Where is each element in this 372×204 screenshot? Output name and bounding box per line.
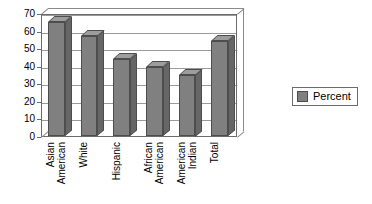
y-tick-label: 50 xyxy=(5,44,35,54)
x-tick-label: Asian American xyxy=(45,142,67,184)
x-tick-label: Total xyxy=(209,142,220,163)
bar-white[interactable] xyxy=(81,30,98,136)
y-tick-mark xyxy=(37,67,41,68)
y-tick-mark xyxy=(37,49,41,50)
bar-front-face xyxy=(81,36,98,136)
bar-hispanic[interactable] xyxy=(113,53,130,136)
bar-front-face xyxy=(211,41,228,136)
x-tick-label: African American xyxy=(143,142,165,184)
chart-screenshot: 706050403020100 Asian AmericanWhiteHispa… xyxy=(0,0,372,204)
bar-side-face xyxy=(195,69,202,136)
bar-front-face xyxy=(48,22,65,136)
y-tick-label: 30 xyxy=(5,79,35,89)
bar-chart: 706050403020100 Asian AmericanWhiteHispa… xyxy=(0,0,270,204)
bar-side-face xyxy=(65,16,72,136)
y-tick-label: 60 xyxy=(5,27,35,37)
plot-area xyxy=(41,14,237,137)
legend-swatch-percent xyxy=(297,91,308,102)
bar-front-face xyxy=(146,67,163,136)
y-tick-label: 0 xyxy=(5,132,35,142)
bar-african-american[interactable] xyxy=(146,61,163,136)
chart-legend: Percent xyxy=(292,87,358,106)
bar-side-face xyxy=(130,53,137,136)
legend-label-percent: Percent xyxy=(313,91,351,102)
bar-side-face xyxy=(163,62,170,136)
bar-total[interactable] xyxy=(211,35,228,136)
y-tick-label: 20 xyxy=(5,97,35,107)
y-tick-label: 70 xyxy=(5,9,35,19)
x-tick-label: White xyxy=(78,142,89,168)
y-tick-mark xyxy=(37,102,41,103)
y-tick-mark xyxy=(37,119,41,120)
y-tick-mark xyxy=(37,84,41,85)
bar-american-indian[interactable] xyxy=(179,69,196,137)
y-tick-mark xyxy=(37,32,41,33)
bar-asian-american[interactable] xyxy=(48,16,65,136)
y-tick-label: 10 xyxy=(5,114,35,124)
plot-depth-edge xyxy=(237,131,245,138)
bar-front-face xyxy=(113,59,130,136)
bar-front-face xyxy=(179,75,196,137)
bar-side-face xyxy=(97,30,104,136)
x-tick-label: American Indian xyxy=(176,142,198,184)
y-tick-label: 40 xyxy=(5,62,35,72)
bar-side-face xyxy=(228,35,235,136)
x-tick-label: Hispanic xyxy=(111,142,122,180)
